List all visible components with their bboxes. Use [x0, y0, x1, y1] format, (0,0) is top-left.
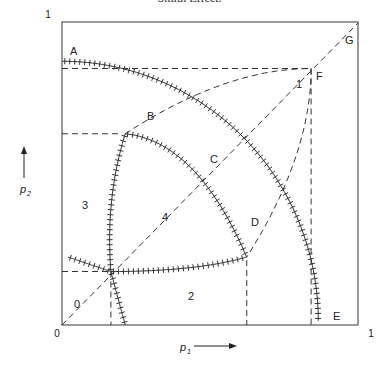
hatch-tick: [196, 98, 199, 103]
hatch-tick: [109, 199, 115, 200]
hatch-tick: [206, 186, 211, 190]
hatch-tick: [273, 175, 278, 178]
y-axis-title-p: p: [19, 183, 26, 195]
hatch-tick: [113, 170, 119, 171]
hatch-tick: [198, 264, 199, 270]
hatch-tick: [109, 63, 110, 69]
hatched-arc-a-e: [62, 61, 318, 321]
hatch-tick: [132, 132, 133, 138]
hatch-tick: [217, 261, 218, 267]
hatch-tick: [118, 150, 124, 151]
hatch-tick: [116, 155, 122, 156]
point-label-a: A: [70, 45, 78, 57]
hatch-tick: [310, 268, 316, 269]
region-label-2: 2: [188, 290, 194, 302]
region-label-3: 3: [82, 199, 88, 211]
hatch-tick: [89, 60, 90, 66]
hatch-tick: [193, 264, 194, 270]
region-label-0: 0: [74, 298, 80, 310]
point-label-b: B: [147, 110, 154, 122]
hatch-tick: [111, 184, 117, 185]
hatch-tick: [208, 262, 209, 268]
hatch-tick: [188, 265, 189, 271]
hatch-tick: [203, 263, 204, 269]
hatch-tick: [222, 260, 223, 266]
hatch-tick: [313, 283, 319, 284]
hatch-tick: [237, 257, 238, 263]
y-axis-title: p 2: [19, 150, 31, 197]
hatched-curve-b-c-d: [125, 134, 247, 257]
region-label-1: 1: [296, 78, 302, 90]
hatch-tick: [270, 171, 275, 174]
hatch-tick: [200, 101, 203, 106]
hatch-tick: [99, 61, 100, 67]
hatch-tick: [222, 212, 227, 215]
hatch-tick: [311, 273, 317, 274]
x-axis-title-sub: 1: [187, 348, 191, 355]
hatch-tick: [227, 259, 228, 265]
x-axis-title-p: p: [179, 341, 186, 353]
hatch-tick: [312, 278, 318, 279]
region-label-4: 4: [162, 211, 168, 223]
diagram-content: [62, 23, 358, 325]
y-axis-title-sub: 2: [26, 190, 31, 197]
hatch-tick: [220, 207, 225, 210]
point-label-g: G: [345, 34, 354, 46]
hatched-curve-b: [110, 134, 126, 272]
hatch-tick: [114, 165, 120, 166]
point-label-f: F: [316, 70, 323, 82]
hatch-tick: [115, 160, 121, 161]
hatch-tick: [264, 163, 269, 167]
hatch-tick: [278, 184, 283, 187]
hatch-tick: [314, 293, 320, 294]
x-tick-0: 0: [54, 328, 60, 339]
hatch-tick: [308, 258, 314, 259]
hatch-tick: [232, 258, 233, 264]
y-tick-1: 1: [45, 9, 51, 20]
point-label-d: D: [251, 216, 259, 228]
hatch-tick: [192, 95, 195, 100]
hatch-tick: [104, 62, 105, 68]
hatch-tick: [164, 145, 167, 150]
hatch-tick: [267, 167, 272, 170]
hatch-tick: [183, 265, 184, 271]
hatch-tick: [204, 103, 207, 108]
hatch-tick: [213, 262, 214, 268]
phase-diagram: 1 0 1 p 1 p 2 A B C D E F G 0 1 2 3 4: [0, 0, 379, 365]
hatch-tick: [111, 179, 117, 180]
hatch-tick: [275, 179, 280, 182]
hatch-tick: [119, 65, 120, 71]
hatch-tick: [110, 189, 116, 190]
hatch-tick: [84, 59, 85, 65]
point-label-c: C: [210, 153, 218, 165]
hatch-tick: [261, 159, 266, 163]
hatch-tick: [137, 133, 138, 139]
hatch-tick: [178, 266, 179, 272]
hatch-tick: [176, 153, 180, 158]
point-label-e: E: [333, 310, 340, 322]
hatch-tick: [172, 150, 176, 155]
hatch-tick: [208, 106, 212, 111]
x-tick-1: 1: [368, 328, 374, 339]
hatch-tick: [309, 263, 315, 264]
hatch-tick: [215, 199, 220, 202]
hatch-tick: [112, 175, 118, 176]
hatch-tick: [109, 194, 115, 195]
hatch-tick: [313, 288, 319, 289]
hatch-tick: [212, 109, 216, 114]
hatch-tick: [94, 60, 95, 66]
hatch-tick: [187, 93, 190, 98]
hatch-tick: [314, 298, 320, 299]
hatch-tick: [209, 191, 214, 195]
x-axis-title: p 1: [179, 341, 233, 355]
hatch-tick: [212, 195, 217, 198]
hatch-tick: [168, 147, 171, 152]
hatch-tick: [108, 204, 114, 205]
hatch-tick: [217, 203, 222, 206]
